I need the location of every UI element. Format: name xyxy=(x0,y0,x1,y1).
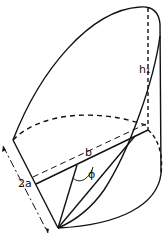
arrow-head-bottom xyxy=(45,228,49,233)
label-width: b xyxy=(85,147,92,158)
geometric-solid-diagram xyxy=(0,0,165,237)
bottom-to-angle-line xyxy=(58,136,135,228)
label-height: h₁ xyxy=(139,64,150,75)
label-angle: ϕ xyxy=(88,169,95,180)
base-back-arc-dashed xyxy=(13,115,148,140)
label-thickness: 2a xyxy=(18,178,32,189)
base-right-arc-dashed xyxy=(148,130,162,174)
